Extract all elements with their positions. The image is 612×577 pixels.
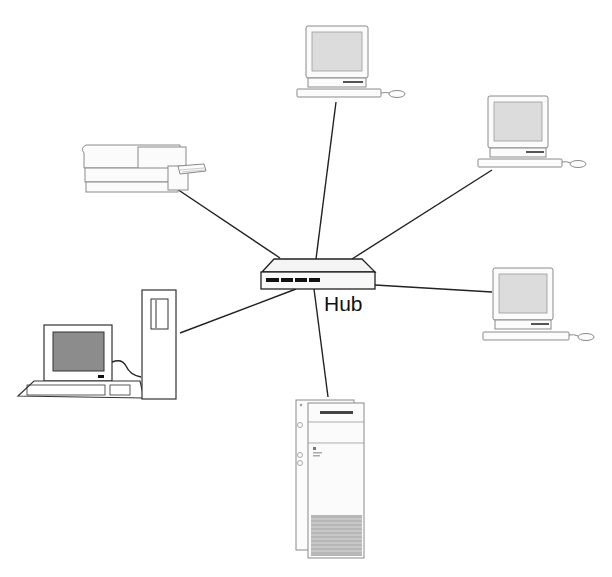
- hub-ports: [266, 278, 320, 282]
- workstation-right: [483, 268, 594, 341]
- pc-left: [18, 290, 176, 399]
- hub-device: [261, 259, 375, 289]
- workstation-top: [297, 26, 405, 98]
- connections: [174, 102, 492, 397]
- network-diagram: [0, 0, 612, 577]
- edge-hub-workstation-top-right: [352, 170, 492, 259]
- edge-hub-printer: [174, 187, 280, 258]
- printer: [82, 145, 206, 192]
- workstation-top-right: [478, 96, 586, 168]
- hub-label: Hub: [324, 292, 363, 316]
- edge-hub-workstation-right: [375, 285, 492, 292]
- edge-hub-workstation-top: [316, 102, 336, 259]
- edge-hub-pc-left: [180, 289, 296, 333]
- server-tower: [296, 400, 364, 558]
